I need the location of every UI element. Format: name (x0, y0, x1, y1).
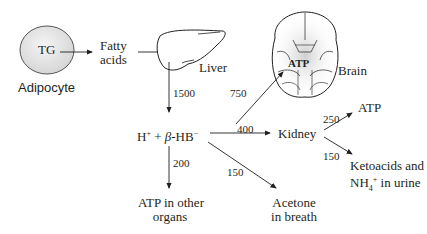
brain-atp-label: ATP (288, 57, 309, 69)
flow-hb-to-other-organs: 200 (173, 157, 190, 169)
adipocyte-label: Adipocyte (18, 80, 75, 95)
hb-node-label: H+ + β-HB− (137, 127, 198, 144)
liver-label: Liver (199, 61, 227, 75)
fatty-acids-label-line2: acids (100, 53, 127, 67)
atp-other-organs-label-line1: ATP in other (138, 196, 202, 210)
flow-hb-to-kidney: 400 (237, 123, 254, 135)
flow-hb-to-brain: 750 (230, 87, 247, 99)
flow-kidney-to-urine: 150 (323, 150, 340, 162)
acetone-label-line1: Acetone (266, 196, 322, 210)
brain-label: Brain (338, 64, 367, 78)
ketoacids-label-line2: NH4+ in urine (350, 173, 421, 196)
kidney-atp-label: ATP (358, 101, 381, 115)
atp-other-organs-label-line2: organs (138, 210, 202, 224)
acetone-label-line2: in breath (266, 210, 322, 224)
tg-label: TG (38, 43, 55, 57)
flow-kidney-to-atp: 250 (323, 113, 340, 125)
ketoacids-label-line1: Ketoacids and (350, 159, 424, 173)
arrow-hb-to-acetone (208, 142, 276, 188)
brain-icon (271, 11, 339, 99)
diagram-canvas (0, 0, 427, 234)
kidney-label: Kidney (278, 127, 316, 141)
flow-hb-to-acetone: 150 (227, 166, 244, 178)
flow-liver-to-hb: 1500 (173, 87, 195, 99)
fatty-acids-label-line1: Fatty (100, 39, 127, 53)
